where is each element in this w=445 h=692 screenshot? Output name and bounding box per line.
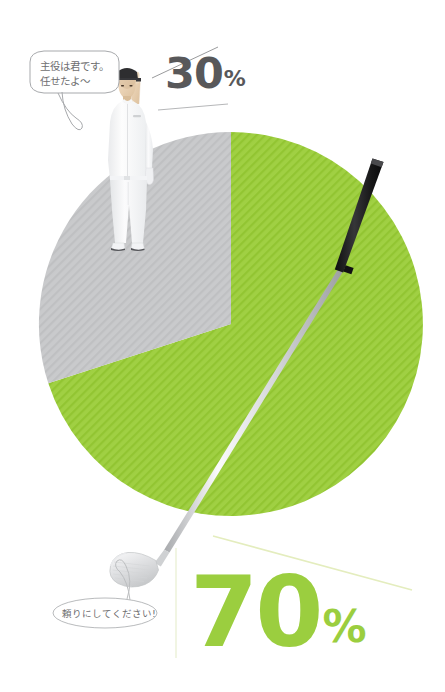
label-70-percent: 70% — [190, 563, 366, 661]
golfer-bubble-line-1: 主役は君です。 — [40, 60, 109, 72]
club-bubble-line-1: 頼りにしてください! — [62, 608, 156, 619]
infographic-canvas: 主役は君です。 任せたよ～ 頼りにしてください! 30% 70% — [0, 0, 445, 692]
label-30-value: 30 — [165, 48, 223, 98]
label-70-unit: % — [322, 601, 366, 652]
golfer-speech-bubble[interactable]: 主役は君です。 任せたよ～ — [30, 51, 119, 130]
leader-line-30-lower — [158, 104, 228, 110]
label-30-percent: 30% — [165, 52, 246, 95]
club-speech-bubble[interactable]: 頼りにしてください! — [53, 560, 157, 628]
golfer-bubble-line-2: 任せたよ～ — [40, 75, 91, 87]
label-30-unit: % — [224, 66, 246, 91]
label-70-value: 70 — [190, 555, 320, 669]
